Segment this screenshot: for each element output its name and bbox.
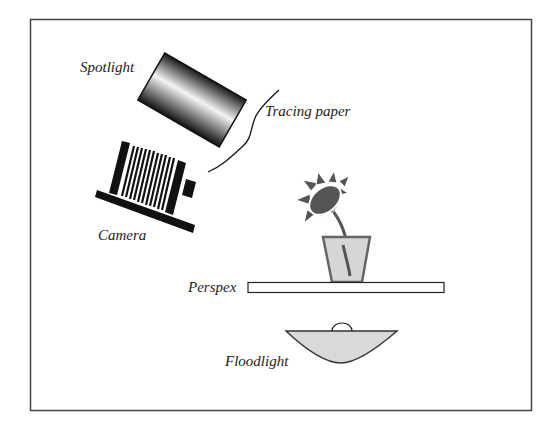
diagram-frame — [31, 20, 532, 411]
label-floodlight: Floodlight — [224, 353, 289, 369]
label-spotlight: Spotlight — [80, 59, 135, 75]
perspex-sheet — [248, 283, 444, 293]
flower-icon — [296, 171, 349, 223]
label-tracing-paper: Tracing paper — [265, 103, 351, 119]
spotlight-icon — [138, 53, 246, 147]
diagram-canvas: Spotlight Tracing paper Camera Perspex F… — [0, 0, 556, 431]
floodlight-icon — [286, 323, 397, 363]
camera-icon — [95, 141, 196, 233]
label-camera: Camera — [98, 227, 146, 243]
label-perspex: Perspex — [187, 279, 237, 295]
